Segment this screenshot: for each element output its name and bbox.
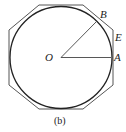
label-o: O (45, 51, 53, 63)
label-e: E (114, 31, 122, 43)
figure-caption: (b) (54, 115, 66, 127)
label-a: A (113, 51, 121, 63)
geometry-diagram: O A B E (b) (0, 0, 126, 132)
label-b: B (100, 8, 107, 20)
radius-ob (61, 21, 97, 58)
